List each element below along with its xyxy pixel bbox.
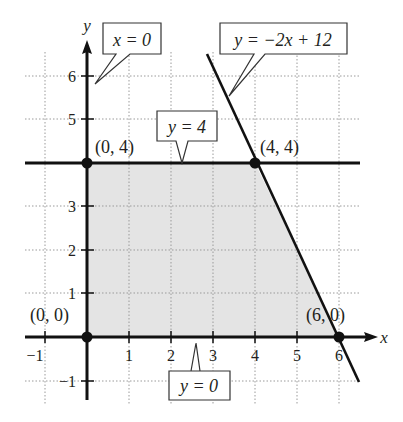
y-axis-label: y <box>81 16 91 35</box>
y-tick-2: 2 <box>68 242 76 259</box>
label-0-0: (0, 0) <box>30 305 69 326</box>
x-axis-arrow-icon <box>364 332 378 342</box>
x-tick-4: 4 <box>251 347 259 364</box>
x-tick-2: 2 <box>167 347 175 364</box>
callout-x0-text: x = 0 <box>112 30 151 50</box>
y-tick-neg1: −1 <box>59 373 76 390</box>
x-tick-3: 3 <box>209 347 217 364</box>
y-tick-6: 6 <box>68 68 76 85</box>
callout-y-equals-neg2x-plus-12: y = −2x + 12 <box>220 23 347 96</box>
callout-y0-text: y = 0 <box>178 376 218 396</box>
callout-y-equals-0: y = 0 <box>169 343 230 400</box>
label-6-0: (6, 0) <box>306 305 345 326</box>
callout-x-equals-0: x = 0 <box>95 23 161 84</box>
vertex-0-4 <box>82 158 93 169</box>
callout-y4-text: y = 4 <box>166 117 206 137</box>
callout-y-equals-4: y = 4 <box>157 111 217 163</box>
y-tick-1: 1 <box>68 285 76 302</box>
label-4-4: (4, 4) <box>260 137 299 158</box>
vertex-6-0 <box>334 332 345 343</box>
vertex-0-0 <box>82 332 93 343</box>
vertex-4-4 <box>250 158 261 169</box>
chart-canvas: −1 1 2 3 4 5 6 6 5 3 2 1 −1 y x (0, 4) (… <box>0 0 403 422</box>
x-axis-label: x <box>379 328 388 347</box>
x-tick-1: 1 <box>125 347 133 364</box>
x-tick-5: 5 <box>293 347 301 364</box>
x-tick-6: 6 <box>335 347 343 364</box>
callout-line-text: y = −2x + 12 <box>232 30 331 50</box>
x-tick-neg1: −1 <box>26 347 43 364</box>
label-0-4: (0, 4) <box>95 137 134 158</box>
y-tick-3: 3 <box>68 198 76 215</box>
y-tick-5: 5 <box>68 111 76 128</box>
y-axis-arrow-icon <box>82 40 92 54</box>
